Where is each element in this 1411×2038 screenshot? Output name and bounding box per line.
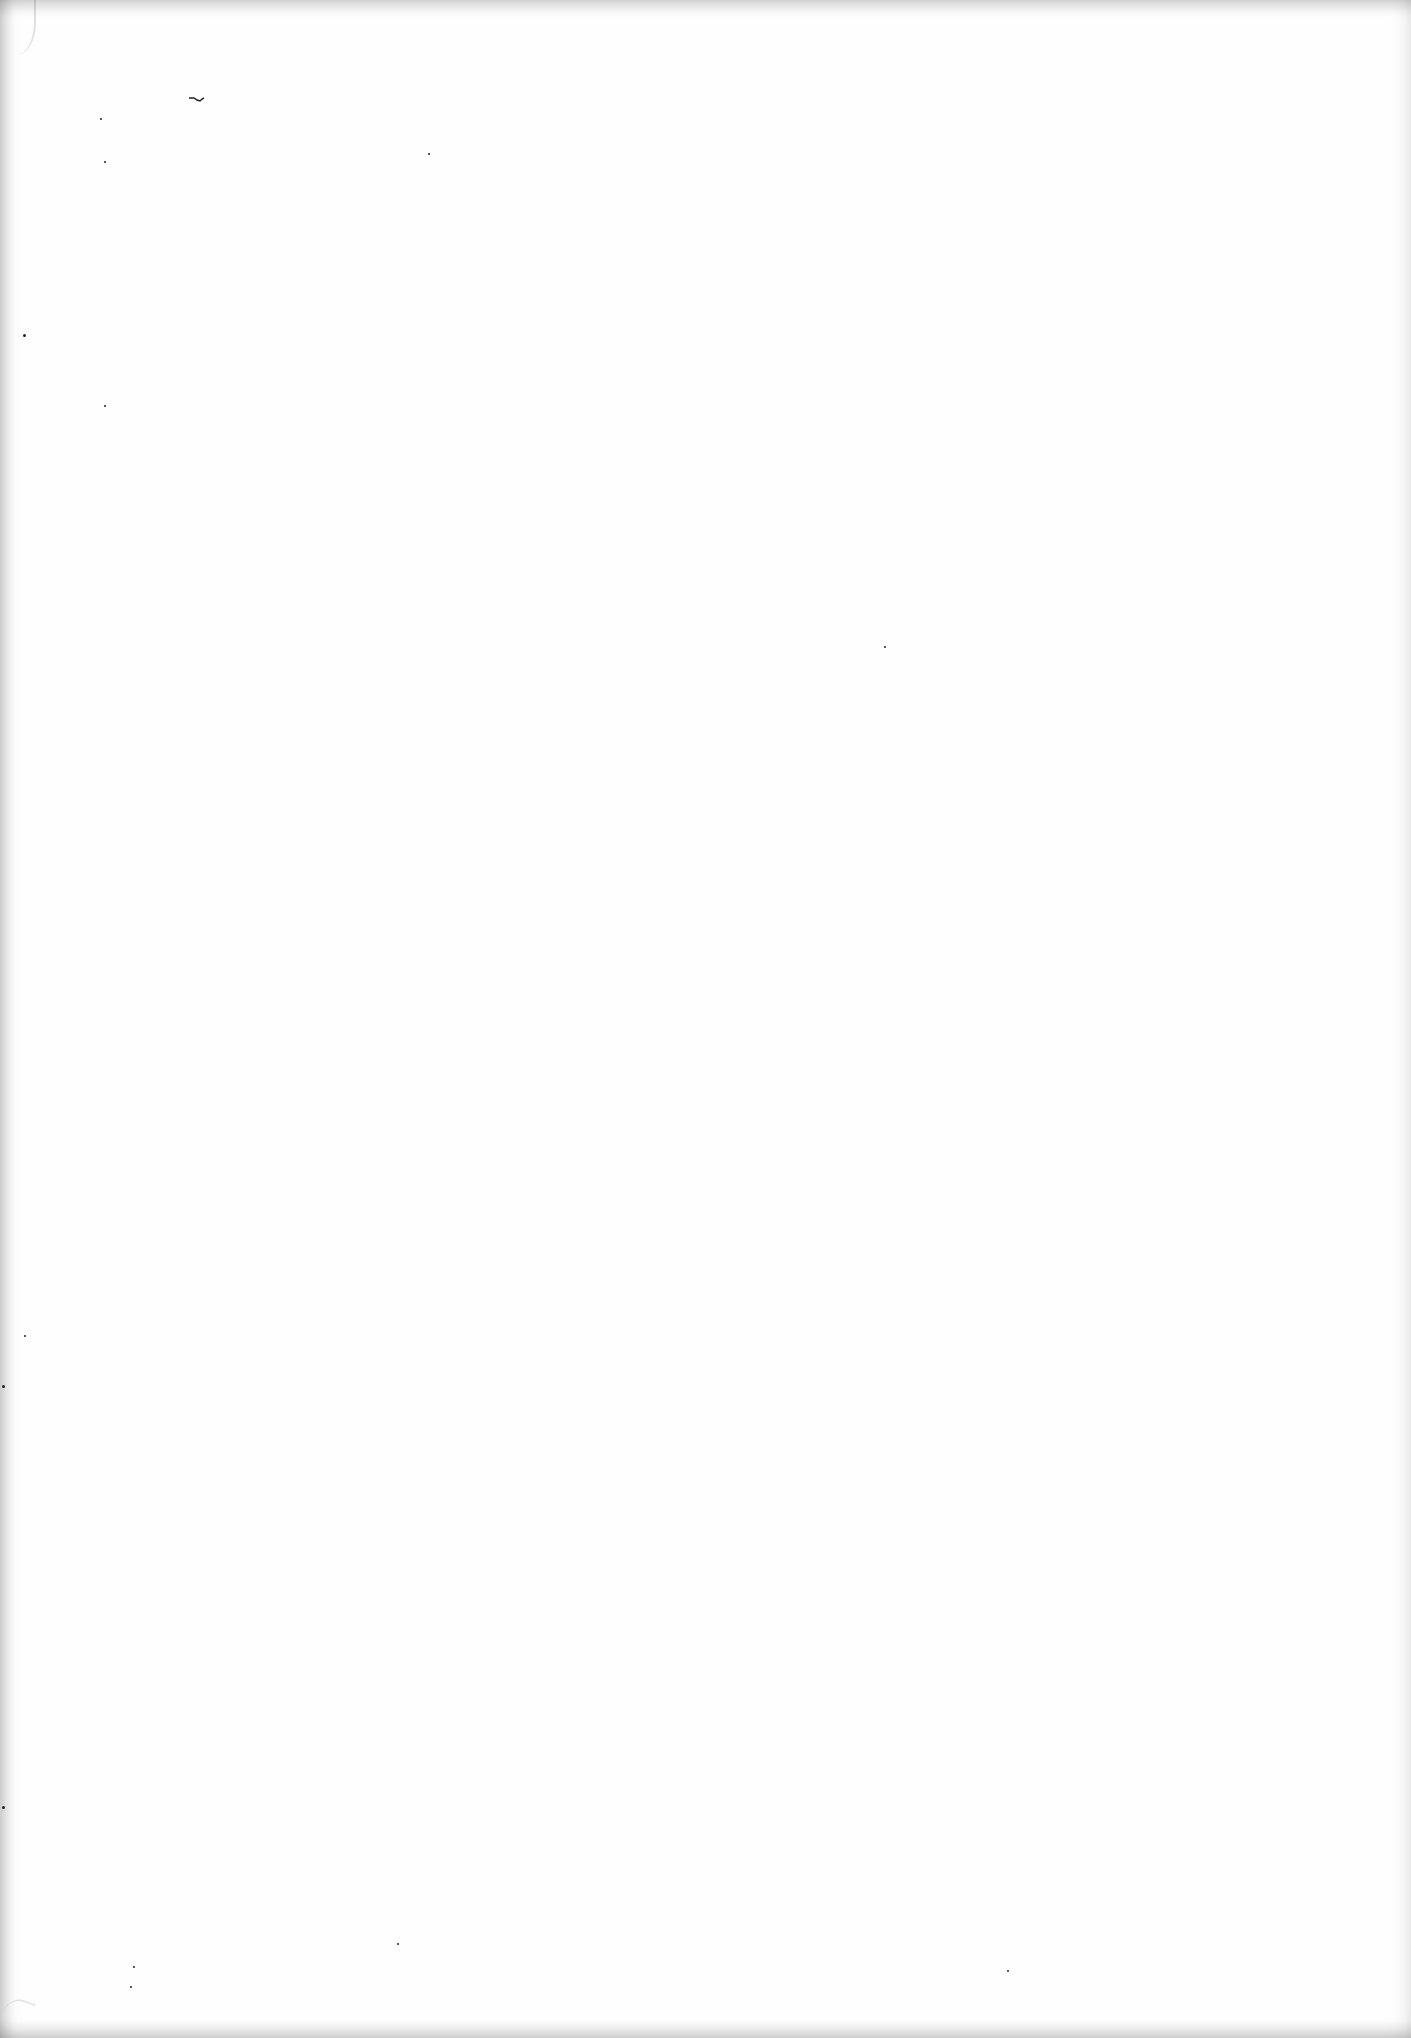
ink-stroke-mark xyxy=(188,96,206,104)
page-corner-curl-top xyxy=(4,0,36,55)
page-edge-shadow-bottom xyxy=(0,2020,1411,2038)
dust-speck xyxy=(100,118,102,120)
page-edge-shadow-top xyxy=(0,0,1411,16)
dust-speck xyxy=(2,1385,5,1388)
dust-speck xyxy=(23,334,26,337)
dust-speck xyxy=(133,1966,135,1968)
dust-speck xyxy=(397,1943,399,1945)
dust-speck xyxy=(884,646,886,648)
dust-speck xyxy=(428,153,430,155)
dust-speck xyxy=(2,1806,5,1809)
dust-speck xyxy=(104,161,106,163)
dust-speck xyxy=(104,405,106,407)
blank-page xyxy=(0,0,1411,2038)
dust-speck xyxy=(24,1335,26,1337)
page-edge-shadow-left xyxy=(0,0,14,2038)
dust-speck xyxy=(1007,1970,1009,1972)
dust-speck xyxy=(130,1986,132,1988)
